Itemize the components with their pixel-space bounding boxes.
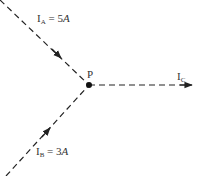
branch-a-arrow-icon xyxy=(52,49,61,58)
current-b-unit: A xyxy=(62,145,69,157)
branch-b-wire xyxy=(6,85,89,176)
branch-b-arrow-icon xyxy=(42,128,50,137)
junction-diagram xyxy=(0,0,199,176)
current-a-unit: A xyxy=(63,12,70,24)
current-a-label: IA = 5A xyxy=(37,13,70,26)
node-p-label: P xyxy=(87,69,93,80)
current-c-label: IC xyxy=(177,71,185,84)
current-a-equals: = xyxy=(46,12,58,24)
node-p-dot-icon xyxy=(86,82,92,88)
current-b-equals: = xyxy=(44,145,56,157)
current-c-subscript: C xyxy=(181,76,186,84)
current-b-label: IB = 3A xyxy=(36,146,68,159)
